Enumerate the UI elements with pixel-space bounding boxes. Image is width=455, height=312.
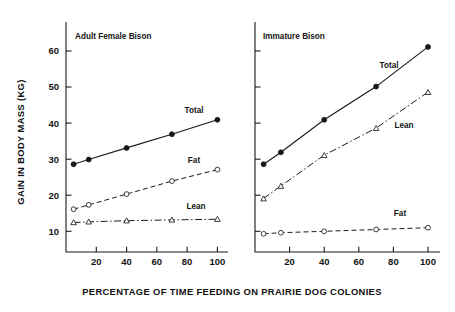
left-label-lean: Lean: [186, 202, 205, 211]
left-x-ticks: [96, 247, 217, 252]
x-tick-80: 80: [182, 256, 193, 267]
y-tick-40: 40: [48, 118, 59, 129]
x-tick-20: 20: [91, 256, 102, 267]
x-tick-100-right: 100: [420, 256, 436, 267]
right-x-ticklabels: 20 40 60 80 100: [284, 256, 436, 267]
x-tick-60: 60: [152, 256, 163, 267]
y-tick-50: 50: [48, 81, 59, 92]
left-series-lean-line: [74, 219, 218, 222]
right-y-ticks: [255, 51, 261, 231]
right-axis-lines: [255, 22, 440, 252]
left-axis-lines: [66, 22, 228, 252]
left-y-ticks: [66, 51, 72, 231]
figure-container: GAIN IN BODY MASS (KG) PERCENTAGE OF TIM…: [0, 0, 455, 312]
x-tick-40-right: 40: [319, 256, 330, 267]
right-label-lean: Lean: [394, 121, 413, 130]
y-tick-30: 30: [48, 154, 59, 165]
y-tick-20: 20: [48, 190, 59, 201]
right-label-fat: Fat: [394, 209, 407, 218]
y-axis-title: GAIN IN BODY MASS (KG): [15, 79, 26, 204]
x-tick-40: 40: [121, 256, 132, 267]
x-axis-title: PERCENTAGE OF TIME FEEDING ON PRAIRIE DO…: [82, 286, 382, 297]
panel-title-right: Immature Bison: [263, 32, 325, 41]
y-tick-60: 60: [48, 45, 59, 56]
x-tick-20-right: 20: [284, 256, 295, 267]
left-label-fat: Fat: [188, 156, 201, 165]
x-tick-80-right: 80: [388, 256, 399, 267]
right-x-ticks: [290, 247, 428, 252]
panel-title-left: Adult Female Bison: [75, 32, 151, 41]
right-series-total-line: [264, 47, 428, 164]
left-y-ticklabels: 10 20 30 40 50 60: [48, 45, 59, 236]
y-tick-10: 10: [48, 226, 59, 237]
right-label-total: Total: [380, 61, 399, 70]
left-x-ticklabels: 20 40 60 80 100: [91, 256, 225, 267]
x-tick-100: 100: [209, 256, 225, 267]
panel-immature-bison: Immature Bison 20 40 60 80: [255, 22, 440, 267]
chart-svg: GAIN IN BODY MASS (KG) PERCENTAGE OF TIM…: [0, 0, 455, 312]
left-label-total: Total: [185, 106, 204, 115]
right-series-fat-line: [264, 228, 428, 234]
panel-adult-female-bison: Adult Female Bison 10 20 30 40 50 60: [48, 22, 228, 267]
x-tick-60-right: 60: [354, 256, 365, 267]
right-series-lean-line: [264, 92, 428, 198]
